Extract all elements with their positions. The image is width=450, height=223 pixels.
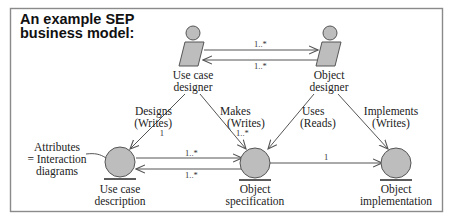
mult-spec-to-impl: 1 [324,153,328,162]
entity-label-object-implementation: Object implementation [352,183,440,207]
mult-desc-to-spec: 1..* [185,149,198,158]
actor-label-object-designer: Object designer [296,69,362,93]
relationship-label-makes: Makes (Writes) 1..* [220,105,280,138]
mult-objdesigner-to-ucdesigner: 1..* [254,62,267,71]
entity-label-use-case-description: Use case description [80,183,160,207]
diagram-title-line1: An example SEP [20,12,134,26]
mult-ucdesigner-to-objdesigner: 1..* [254,40,267,49]
annotation-attributes: Attributes = Interaction diagrams [26,141,88,177]
relationship-label-implements: Implements (Writes) [358,105,424,129]
relationship-label-designs: Designs (Writes) 1 [112,105,172,138]
diagram-title: An example SEP business model: [20,12,134,40]
mult-spec-to-desc: 1..* [185,171,198,180]
diagram-title-line2: business model: [20,26,134,40]
actor-label-use-case-designer: Use case designer [160,69,226,93]
entity-label-object-specification: Object specification [215,183,295,207]
sep-business-model-diagram: An example SEP business model: Use case … [0,0,450,223]
relationship-label-uses: Uses (Reads) [300,105,340,129]
